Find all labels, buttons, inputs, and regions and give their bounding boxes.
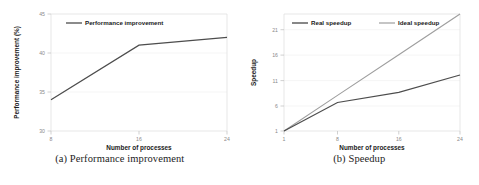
chart-a-legend-label-performance-improvement: Performance improvement (85, 19, 163, 26)
figure-row: 45 40 35 30 8 16 24 Number of processes … (0, 0, 479, 185)
chart-a-svg: 45 40 35 30 8 16 24 Number of processes … (5, 0, 235, 152)
caption-b: (b) Speedup (333, 153, 385, 165)
caption-a: (a) Performance improvement (55, 153, 184, 165)
chart-b-ytick-16: 16 (272, 52, 278, 58)
chart-b-x-tickmarks (284, 131, 460, 135)
chart-a-ytick-35: 35 (39, 89, 45, 95)
chart-a-xtick-16: 16 (136, 136, 142, 142)
chart-a-xtick-8: 8 (49, 136, 52, 142)
chart-b-xtick-16: 16 (396, 136, 402, 142)
chart-a-x-tickmarks (51, 131, 227, 135)
chart-b-xtick-8: 8 (336, 136, 339, 142)
chart-a-legend: Performance improvement (66, 19, 163, 26)
chart-a-xaxis-title: Number of processes (106, 144, 172, 152)
chart-b-legend-label-real-speedup: Real speedup (311, 19, 351, 26)
chart-b-ytick-11: 11 (273, 78, 278, 84)
chart-b-series-real-speedup (284, 75, 460, 131)
chart-b-ytick-21: 21 (272, 27, 278, 33)
chart-speedup: 21 16 11 6 1 1 8 16 24 Number of process… (244, 0, 474, 152)
figure-panel-b: 21 16 11 6 1 1 8 16 24 Number of process… (240, 0, 479, 185)
chart-a-ytick-30: 30 (39, 128, 45, 134)
chart-b-svg: 21 16 11 6 1 1 8 16 24 Number of process… (244, 0, 474, 152)
chart-a-yaxis-title: Performance improvement (%) (13, 26, 21, 119)
chart-b-xtick-1: 1 (283, 136, 286, 142)
chart-b-xaxis-title: Number of processes (340, 144, 406, 152)
chart-a-y-tickmarks (47, 14, 51, 131)
chart-a-series-performance-improvement (51, 37, 227, 99)
chart-a-ytick-45: 45 (39, 11, 45, 17)
chart-a-grid (51, 14, 227, 131)
chart-a-xtick-24: 24 (224, 136, 230, 142)
figure-panel-a: 45 40 35 30 8 16 24 Number of processes … (0, 0, 240, 185)
chart-b-legend-label-ideal-speedup: Ideal speedup (398, 19, 439, 26)
chart-b-legend: Real speedup Ideal speedup (292, 19, 439, 26)
chart-b-series-ideal-speedup (284, 14, 460, 131)
chart-performance-improvement: 45 40 35 30 8 16 24 Number of processes … (5, 0, 235, 152)
chart-b-ytick-6: 6 (275, 103, 278, 109)
chart-b-xtick-24: 24 (457, 136, 463, 142)
chart-a-ytick-40: 40 (39, 50, 45, 56)
chart-b-ytick-1: 1 (275, 128, 278, 134)
chart-b-y-tickmarks (281, 30, 285, 131)
chart-b-yaxis-title: Speedup (250, 59, 258, 86)
